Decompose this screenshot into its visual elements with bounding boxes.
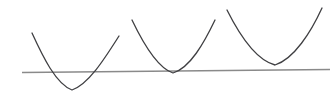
figure-background [0, 0, 335, 98]
figure-canvas [0, 0, 335, 98]
parabolas-and-line-svg [0, 0, 335, 98]
